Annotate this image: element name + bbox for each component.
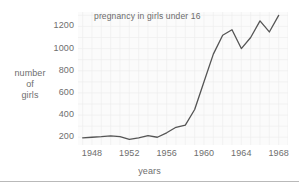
chart-title: pregnancy in girls under 16: [94, 11, 201, 21]
x-tick-label: 1956: [150, 148, 184, 158]
grid-lines: [78, 12, 288, 145]
chart-figure: number of girls 20040060080010001200 pre…: [0, 0, 299, 190]
plot-area: [78, 12, 288, 145]
y-tick-label: 400: [48, 109, 74, 119]
x-axis-tick-labels: 194819521956196019641968: [0, 148, 299, 162]
y-tick-label: 600: [48, 87, 74, 97]
y-tick-label: 800: [48, 65, 74, 75]
x-axis-label: years: [0, 166, 299, 176]
footer-divider: [0, 181, 299, 182]
x-tick-label: 1948: [75, 148, 109, 158]
x-tick-label: 1964: [224, 148, 258, 158]
y-tick-label: 1200: [48, 20, 74, 30]
x-tick-label: 1960: [187, 148, 221, 158]
x-tick-label: 1952: [112, 148, 146, 158]
x-tick-label: 1968: [262, 148, 296, 158]
y-tick-label: 1000: [48, 43, 74, 53]
y-tick-label: 200: [48, 131, 74, 141]
